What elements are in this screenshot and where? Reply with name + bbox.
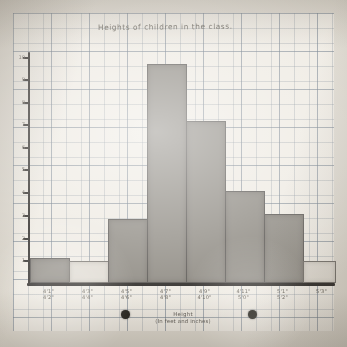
y-tick-label-5: 5 bbox=[14, 166, 25, 172]
x-axis-caption-sub: (In feet and inches) bbox=[118, 318, 248, 325]
bar-4-3-4-4 bbox=[69, 261, 109, 283]
histogram-plot: Heights of children in the class. 10 9 8… bbox=[0, 0, 347, 347]
y-tick-label-2: 2 bbox=[14, 235, 25, 241]
x-axis-caption-main: Height bbox=[118, 311, 248, 318]
graph-paper-sheet: Heights of children in the class. 10 9 8… bbox=[0, 0, 347, 347]
x-label-group-8: 5'3" bbox=[299, 288, 345, 294]
bar-5-1-5-2 bbox=[264, 214, 304, 283]
marker-dot-right bbox=[248, 310, 257, 319]
y-tick-label-7: 7 bbox=[14, 121, 25, 127]
bar-5-3 bbox=[303, 261, 336, 283]
y-tick-label-9: 9 bbox=[14, 76, 25, 82]
bar-4-7-4-8 bbox=[147, 64, 187, 283]
y-tick-label-10: 10 bbox=[14, 54, 25, 60]
bar-4-11-5-0 bbox=[225, 191, 265, 283]
chart-title: Heights of children in the class. bbox=[98, 21, 318, 33]
bar-4-1-4-2 bbox=[30, 258, 70, 283]
y-tick-label-1: 1 bbox=[14, 257, 25, 263]
y-tick-label-3: 3 bbox=[14, 212, 25, 218]
bar-4-5-4-6 bbox=[108, 219, 148, 283]
y-tick-label-6: 6 bbox=[14, 144, 25, 150]
x-axis-caption: Height (In feet and inches) bbox=[118, 311, 248, 326]
y-tick-label-4: 4 bbox=[14, 189, 25, 195]
x-label-lower-8: 5'3" bbox=[298, 288, 345, 294]
x-label-upper-7: 5'2" bbox=[259, 294, 306, 300]
bar-4-9-4-10 bbox=[186, 121, 226, 283]
y-tick-label-8: 8 bbox=[14, 99, 25, 105]
x-axis-line bbox=[27, 283, 335, 286]
